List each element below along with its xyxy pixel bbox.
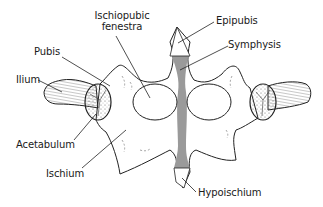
left-fenestra bbox=[133, 84, 177, 120]
label-ilium: Ilium bbox=[16, 74, 40, 85]
label-ischium: Ischium bbox=[46, 168, 84, 179]
label-pubis: Pubis bbox=[34, 46, 60, 57]
label-epipubis: Epipubis bbox=[216, 15, 258, 26]
label-ischiopubic-fenestra-line1: Ischiopubic bbox=[84, 10, 160, 21]
label-ischiopubic-fenestra-line2: fenestra bbox=[84, 21, 160, 32]
label-hypoischium: Hypoischium bbox=[198, 187, 262, 198]
leader-epipubis bbox=[178, 22, 214, 43]
label-symphysis: Symphysis bbox=[228, 39, 281, 50]
pelvic-girdle-diagram: Ischiopubic fenestra Epipubis Symphysis … bbox=[0, 0, 323, 207]
label-ischiopubic-fenestra: Ischiopubic fenestra bbox=[84, 10, 160, 32]
right-fenestra bbox=[187, 84, 231, 120]
leader-acetabulum bbox=[74, 114, 96, 140]
label-acetabulum: Acetabulum bbox=[16, 139, 75, 150]
